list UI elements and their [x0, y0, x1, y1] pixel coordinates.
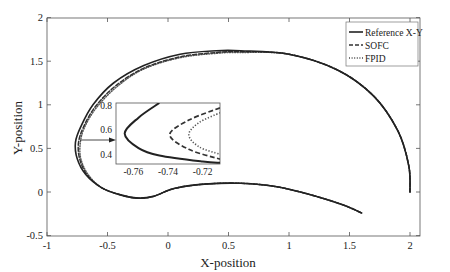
arrow-annotation	[80, 138, 116, 143]
y-tick-label: -0.5	[26, 230, 43, 241]
inset-zoom: -0.76-0.74-0.720.40.60.8	[100, 101, 220, 177]
legend-label-sofc: SOFC	[365, 41, 389, 51]
y-axis-label: Y-position	[10, 100, 25, 155]
x-tick-label: -1	[43, 240, 52, 251]
x-tick-label: 2	[407, 240, 412, 251]
x-tick-label: -0.5	[99, 240, 116, 251]
legend-label-fpid: FPID	[365, 54, 386, 64]
x-tick-label: 1	[286, 240, 291, 251]
x-tick-label: 1.5	[343, 240, 356, 251]
y-tick-label: 0.5	[30, 143, 43, 154]
inset-y-tick-label: 0.6	[100, 125, 112, 135]
inset-x-tick-label: -0.72	[193, 167, 213, 177]
x-tick-label: 0	[165, 240, 170, 251]
y-tick-label: 0	[38, 187, 43, 198]
y-tick-label: 1	[38, 99, 43, 110]
legend: Reference X-Y SOFC FPID	[346, 22, 423, 66]
y-tick-label: 1.5	[30, 56, 43, 67]
inset-x-tick-label: -0.76	[123, 167, 143, 177]
legend-label-reference: Reference X-Y	[365, 28, 423, 38]
x-tick-label: 0.5	[222, 240, 235, 251]
inset-x-tick-label: -0.74	[158, 167, 178, 177]
y-tick-label: 2	[38, 12, 43, 23]
x-axis-label: X-position	[200, 255, 256, 270]
inset-y-tick-label: 0.8	[100, 101, 112, 111]
trajectory-chart: -1-0.500.511.52-0.500.511.52 X-position …	[0, 0, 450, 272]
arrow-head-icon	[109, 138, 116, 143]
inset-y-tick-label: 0.4	[100, 150, 112, 160]
